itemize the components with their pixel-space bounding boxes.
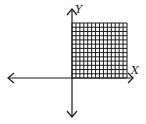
coordinate-plane: Y X [0, 0, 146, 124]
x-axis-label: X [130, 64, 140, 77]
x-axis [8, 73, 133, 83]
first-quadrant-grid [72, 23, 127, 78]
y-axis-label: Y [75, 3, 84, 16]
